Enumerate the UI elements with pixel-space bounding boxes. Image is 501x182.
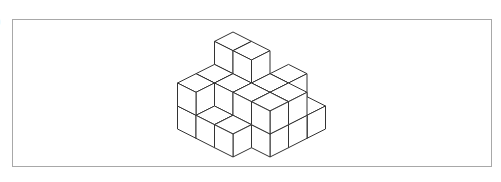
isometric-cube-stack <box>0 0 501 182</box>
